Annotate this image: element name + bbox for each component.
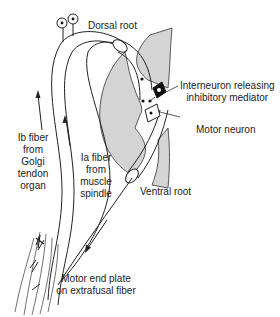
label-interneuron-line1: Interneuron releasing [180,80,275,92]
label-ia-fiber: Ia fiber from muscle spindle [78,152,114,200]
label-motor-neuron: Motor neuron [196,124,255,136]
motor-end-plate-arrow [32,284,40,290]
label-dorsal-root: Dorsal root [88,20,137,32]
motor-neuron-line [160,112,180,117]
ia-direction-arrow [63,115,71,146]
dorsal-root-cut [111,37,130,54]
label-ib-fiber: Ib fiber from Golgi tendon organ [16,132,50,192]
label-interneuron-line2: inhibitory mediator [180,92,275,104]
motor-direction-arrow [85,220,107,253]
ib-direction-arrow [36,90,43,130]
label-motor-end-plate: Motor end plate on extrafusal fiber [48,273,144,297]
label-ventral-root: Ventral root [140,186,191,198]
motor-neuron-nucleus [150,112,153,115]
label-interneuron: Interneuron releasing inhibitory mediato… [180,80,275,104]
spinal-cord-gray-matter-ventral [152,128,170,188]
synapse-dot [141,99,144,102]
interneuron-nucleus [157,88,161,92]
synapse-dot [140,77,143,80]
